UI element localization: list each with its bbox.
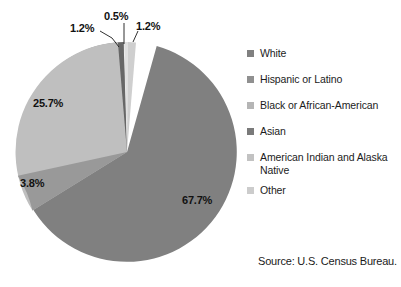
legend-swatch-icon [247,154,254,161]
legend-item-white[interactable]: White [247,47,399,60]
pie-value-label-hispanic: 25.7% [33,97,63,109]
legend-item-american-indian-and-alaska-native[interactable]: American Indian and Alaska Native [247,151,399,177]
pie-value-label-american-indian: 0.5% [104,10,128,22]
chart-legend: White Hispanic or Latino Black or Africa… [247,47,399,210]
legend-swatch-icon [247,187,254,194]
legend-item-other[interactable]: Other [247,184,399,197]
leader-line-other [133,31,138,42]
legend-label: American Indian and Alaska Native [260,151,399,177]
pie-value-label-other: 1.2% [136,20,160,32]
legend-swatch-icon [247,76,254,83]
legend-label: Black or African-American [260,99,378,112]
legend-swatch-icon [247,102,254,109]
source-attribution: Source: U.S. Census Bureau. [258,255,397,267]
legend-item-asian[interactable]: Asian [247,125,399,138]
legend-label: White [260,47,286,60]
legend-swatch-icon [247,128,254,135]
pie-chart-figure: 67.7% 25.7% 3.8% 1.2% 0.5% 1.2% White Hi… [0,0,401,287]
legend-label: Asian [260,125,286,138]
legend-label: Hispanic or Latino [260,73,342,86]
pie-value-label-black: 3.8% [20,177,44,189]
pie-value-label-asian: 1.2% [70,22,94,34]
legend-item-black-or-african-american[interactable]: Black or African-American [247,99,399,112]
legend-item-hispanic-or-latino[interactable]: Hispanic or Latino [247,73,399,86]
legend-swatch-icon [247,50,254,57]
pie-value-label-white: 67.7% [182,194,212,206]
legend-label: Other [260,184,286,197]
